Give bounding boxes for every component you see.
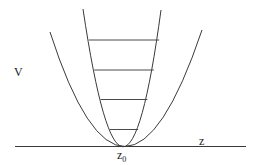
minimum-label: z0 bbox=[117, 148, 126, 164]
narrow-potential-curve bbox=[83, 9, 161, 147]
minimum-label-subscript: 0 bbox=[122, 155, 126, 164]
x-axis-label: z bbox=[199, 134, 204, 148]
potential-well-diagram: V z z0 bbox=[0, 0, 256, 165]
y-axis-label: V bbox=[14, 65, 23, 79]
